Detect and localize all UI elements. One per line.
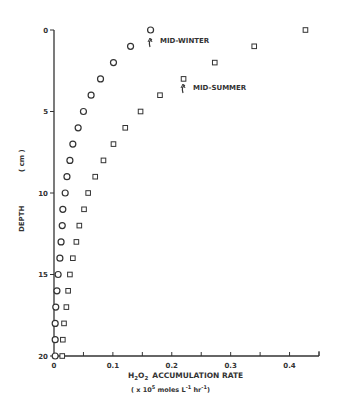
winter-point <box>55 272 61 278</box>
annotation-mid-summer: MID-SUMMER <box>181 84 247 93</box>
winter-point <box>54 288 60 294</box>
summer-point <box>68 272 73 277</box>
summer-point <box>93 174 98 179</box>
annotation-mid-winter: MID-WINTER <box>148 37 210 47</box>
x-tick-label: 0.1 <box>107 362 120 370</box>
summer-point <box>181 77 186 82</box>
winter-point <box>52 353 58 359</box>
summer-point <box>64 305 69 310</box>
x-axis-units: ( x 105 moles L-1 hr-1) <box>131 384 210 394</box>
summer-point <box>111 142 116 147</box>
axes <box>54 30 319 356</box>
y-tick-label: 5 <box>43 108 48 116</box>
winter-point <box>57 255 63 261</box>
winter-point <box>58 239 64 245</box>
y-tick-label: 15 <box>38 271 48 279</box>
depth-profile-chart: 00.10.20.30.405101520 MID-WINTER MID-SUM… <box>0 0 337 413</box>
data-points <box>52 27 308 359</box>
y-tick-label: 0 <box>43 27 48 35</box>
y-axis-title: DEPTH <box>18 206 26 232</box>
summer-point <box>71 256 76 261</box>
winter-point <box>75 125 81 131</box>
winter-point <box>148 27 154 33</box>
winter-point <box>53 304 59 310</box>
y-tick-label: 20 <box>38 353 48 361</box>
x-tick-label: 0.2 <box>166 362 179 370</box>
annotation-summer-label: MID-SUMMER <box>193 84 247 92</box>
winter-point <box>62 190 68 196</box>
summer-point <box>86 191 91 196</box>
summer-point <box>62 321 67 326</box>
x-tick-label: 0.4 <box>283 362 296 370</box>
winter-point <box>59 223 65 229</box>
summer-point <box>303 28 308 33</box>
x-tick-label: 0.3 <box>224 362 237 370</box>
winter-point <box>98 76 104 82</box>
winter-point <box>67 157 73 163</box>
summer-point <box>101 158 106 163</box>
winter-point <box>60 206 66 212</box>
y-axis-units: ( cm ) <box>18 149 26 172</box>
winter-point <box>128 43 134 49</box>
summer-point <box>66 289 71 294</box>
summer-point <box>252 44 257 49</box>
summer-point <box>138 109 143 114</box>
annotation-winter-label: MID-WINTER <box>160 37 210 45</box>
winter-point <box>70 141 76 147</box>
summer-point <box>212 60 217 65</box>
x-axis-title: H2O2ACCUMULATION RATE <box>128 371 243 381</box>
summer-point <box>61 337 66 342</box>
summer-point <box>82 207 87 212</box>
summer-point <box>77 223 82 228</box>
axis-ticks: 00.10.20.30.405101520 <box>38 27 319 371</box>
winter-point <box>52 320 58 326</box>
winter-point <box>52 337 58 343</box>
summer-point <box>123 126 128 131</box>
summer-point <box>60 354 65 359</box>
series-mid-summer <box>60 28 308 359</box>
y-tick-label: 10 <box>38 190 48 198</box>
winter-point <box>88 92 94 98</box>
summer-point <box>74 240 79 245</box>
x-tick-label: 0 <box>52 362 57 370</box>
winter-point <box>80 109 86 115</box>
winter-point <box>110 60 116 66</box>
summer-point <box>158 93 163 98</box>
winter-point <box>64 174 70 180</box>
